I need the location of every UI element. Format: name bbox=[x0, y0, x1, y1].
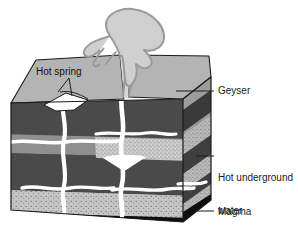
hot-spring-conduit bbox=[62, 96, 65, 206]
diagram-canvas: Hot spring Geyser Hot underground water … bbox=[0, 0, 298, 235]
water-vein-right-deep bbox=[178, 182, 206, 184]
label-hot-spring: Hot spring bbox=[36, 66, 82, 77]
label-magma: Magma bbox=[218, 206, 251, 217]
label-hot-underground-water-line1: Hot underground bbox=[218, 172, 293, 183]
magma-feed-right bbox=[121, 202, 122, 216]
water-vein-upper-right bbox=[96, 133, 176, 135]
top-surface-group bbox=[11, 55, 211, 103]
water-vein-mid-left bbox=[22, 187, 114, 189]
geyser-conduit bbox=[121, 92, 124, 208]
label-hot-underground-water: Hot underground water bbox=[218, 150, 293, 235]
magma-feed-left bbox=[63, 200, 64, 214]
label-geyser: Geyser bbox=[218, 85, 250, 96]
